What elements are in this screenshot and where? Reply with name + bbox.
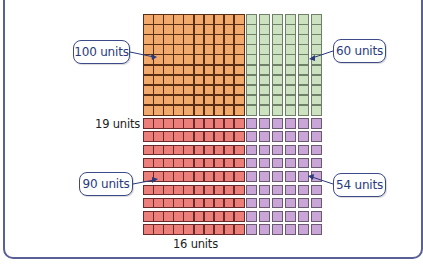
unit-square-bottom-left (224, 145, 235, 156)
unit-square-top-right (298, 105, 309, 116)
unit-square-bottom-right (272, 211, 283, 222)
unit-square-top-left (153, 95, 164, 106)
unit-square-top-left (183, 105, 194, 116)
unit-square-bottom-left (183, 145, 194, 156)
unit-square-top-left (143, 65, 154, 76)
unit-square-top-left (204, 105, 215, 116)
unit-square-bottom-left (153, 131, 164, 142)
unit-square-bottom-right (311, 224, 322, 235)
unit-square-top-left (224, 34, 235, 45)
unit-square-bottom-left (153, 185, 164, 196)
unit-square-top-left (224, 54, 235, 65)
unit-square-top-left (224, 14, 235, 25)
unit-square-top-left (183, 24, 194, 35)
unit-square-bottom-left (214, 224, 225, 235)
unit-square-top-left (183, 75, 194, 86)
unit-square-bottom-left (143, 185, 154, 196)
unit-square-top-left (143, 34, 154, 45)
unit-square-bottom-left (214, 158, 225, 169)
unit-square-top-right (311, 14, 322, 25)
unit-square-bottom-left (163, 145, 174, 156)
unit-square-top-right (246, 54, 257, 65)
unit-square-bottom-left (143, 145, 154, 156)
unit-square-top-left (214, 95, 225, 106)
unit-square-top-left (214, 44, 225, 55)
unit-square-bottom-right (298, 224, 309, 235)
unit-square-top-left (183, 85, 194, 96)
unit-square-top-right (311, 34, 322, 45)
unit-square-bottom-left (224, 131, 235, 142)
unit-square-top-left (173, 54, 184, 65)
unit-square-top-right (298, 24, 309, 35)
unit-square-bottom-left (224, 185, 235, 196)
unit-square-top-left (163, 54, 174, 65)
unit-square-top-right (272, 85, 283, 96)
unit-square-bottom-right (272, 198, 283, 209)
unit-square-top-left (194, 95, 205, 106)
unit-square-bottom-left (234, 118, 245, 129)
unit-square-top-left (173, 105, 184, 116)
unit-square-top-right (285, 34, 296, 45)
unit-square-top-left (163, 34, 174, 45)
unit-square-bottom-left (204, 158, 215, 169)
unit-square-bottom-left (194, 224, 205, 235)
unit-square-top-right (259, 44, 270, 55)
unit-square-top-right (285, 85, 296, 96)
unit-square-bottom-left (143, 118, 154, 129)
unit-square-bottom-left (204, 198, 215, 209)
unit-square-top-left (234, 65, 245, 76)
unit-square-bottom-left (214, 131, 225, 142)
unit-square-bottom-left (194, 211, 205, 222)
unit-square-top-right (285, 44, 296, 55)
unit-square-bottom-right (246, 224, 257, 235)
unit-square-top-right (259, 14, 270, 25)
unit-square-bottom-right (311, 211, 322, 222)
unit-square-bottom-right (246, 145, 257, 156)
unit-square-bottom-left (204, 131, 215, 142)
unit-square-bottom-left (234, 224, 245, 235)
unit-square-bottom-right (298, 118, 309, 129)
unit-square-bottom-right (246, 158, 257, 169)
unit-square-top-left (183, 44, 194, 55)
unit-square-top-left (234, 95, 245, 106)
unit-square-bottom-left (153, 145, 164, 156)
unit-square-bottom-left (234, 185, 245, 196)
unit-square-bottom-right (272, 131, 283, 142)
unit-square-bottom-left (194, 131, 205, 142)
unit-square-bottom-right (298, 185, 309, 196)
unit-square-top-left (173, 75, 184, 86)
unit-square-bottom-left (204, 118, 215, 129)
unit-square-top-right (298, 95, 309, 106)
unit-square-top-left (194, 24, 205, 35)
unit-square-top-left (163, 85, 174, 96)
unit-square-top-right (311, 105, 322, 116)
unit-square-bottom-right (259, 185, 270, 196)
unit-square-bottom-right (285, 158, 296, 169)
unit-square-bottom-right (298, 171, 309, 182)
unit-square-top-right (272, 34, 283, 45)
unit-square-top-right (285, 75, 296, 86)
unit-square-top-left (224, 85, 235, 96)
unit-square-top-right (246, 75, 257, 86)
unit-square-top-left (163, 105, 174, 116)
unit-square-top-left (153, 105, 164, 116)
unit-square-top-right (246, 14, 257, 25)
unit-square-top-left (194, 105, 205, 116)
unit-square-bottom-left (163, 118, 174, 129)
unit-square-bottom-left (163, 224, 174, 235)
unit-square-bottom-right (298, 131, 309, 142)
unit-square-bottom-left (173, 118, 184, 129)
unit-square-top-left (183, 95, 194, 106)
unit-square-top-right (259, 54, 270, 65)
unit-square-bottom-right (272, 118, 283, 129)
unit-square-bottom-left (173, 131, 184, 142)
unit-square-top-left (163, 24, 174, 35)
unit-square-top-left (234, 85, 245, 96)
unit-square-top-right (311, 44, 322, 55)
unit-square-bottom-right (259, 118, 270, 129)
unit-square-top-right (311, 24, 322, 35)
unit-square-top-right (246, 85, 257, 96)
unit-square-top-left (234, 24, 245, 35)
unit-square-bottom-left (183, 224, 194, 235)
unit-square-bottom-right (246, 211, 257, 222)
